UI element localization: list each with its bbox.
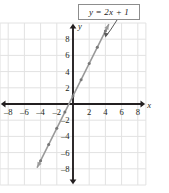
equation-callout-box: y = 2x + 1 bbox=[78, 4, 140, 20]
data-point-marker bbox=[104, 30, 107, 33]
data-point-marker bbox=[96, 46, 99, 49]
data-point-marker bbox=[88, 62, 91, 65]
y-tick-label: 4 bbox=[65, 67, 70, 77]
y-tick-label: –8 bbox=[60, 164, 70, 174]
y-tick-label: –6 bbox=[60, 148, 70, 158]
equation-text: y = 2x + 1 bbox=[89, 7, 129, 17]
x-tick-label: –2 bbox=[52, 107, 62, 117]
x-tick-label: 6 bbox=[119, 107, 124, 117]
y-axis-name-label: y bbox=[77, 21, 82, 31]
x-tick-label: –4 bbox=[35, 107, 45, 117]
x-tick-label: –8 bbox=[3, 107, 13, 117]
y-tick-label: 6 bbox=[65, 50, 70, 60]
data-point-marker bbox=[55, 127, 58, 130]
coordinate-plane: –8–6–4–22468–8–6–4–22468 xy bbox=[0, 0, 169, 193]
data-point-marker bbox=[39, 159, 42, 162]
data-point-marker bbox=[63, 111, 66, 114]
x-axis-name-label: x bbox=[146, 100, 151, 110]
x-tick-label: 2 bbox=[87, 107, 91, 117]
data-point-marker bbox=[72, 94, 75, 97]
x-tick-label: –6 bbox=[19, 107, 29, 117]
x-tick-label: 4 bbox=[103, 107, 108, 117]
data-point-marker bbox=[47, 143, 50, 146]
x-tick-label: 8 bbox=[136, 107, 140, 117]
y-tick-label: –4 bbox=[60, 131, 70, 141]
y-tick-label: 8 bbox=[65, 34, 69, 44]
data-point-marker bbox=[80, 78, 83, 81]
y-tick-label: 2 bbox=[65, 83, 69, 93]
graph-figure: –8–6–4–22468–8–6–4–22468 xy y = 2x + 1 x… bbox=[0, 0, 169, 193]
